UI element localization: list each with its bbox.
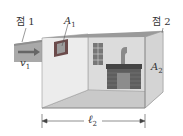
a2-subscript: 2 (158, 67, 162, 75)
label-a1: A1 (64, 16, 76, 29)
label-point-2: 점 2 (152, 17, 171, 27)
v-subscript: 1 (26, 63, 30, 71)
back-window (93, 43, 103, 65)
label-point-1: 점 1 (16, 17, 35, 27)
label-v1: v1 (20, 58, 30, 71)
label-l2: ℓ2 (88, 114, 97, 128)
label-a2: A2 (151, 62, 163, 75)
a1-subscript: 1 (71, 21, 75, 29)
l2-subscript: 2 (93, 120, 97, 128)
window-a1 (54, 39, 68, 57)
ceiling-edge (42, 31, 163, 38)
